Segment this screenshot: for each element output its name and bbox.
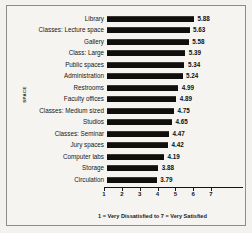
bar-value-label: 5.58 [192,39,204,45]
bar-track: 5.39 [107,48,243,60]
category-label: Jury spaces [16,142,107,148]
bar [107,96,176,102]
bar-track: 5.24 [107,71,243,83]
bar-row: Computer labs4.19 [16,151,243,163]
chart-figure: SPACE Library5.88Classes: Lecture space5… [0,0,252,233]
x-axis-tick-label: 3 [138,191,141,197]
bar [107,62,184,68]
bar-track: 5.63 [107,25,243,37]
bar-value-label: 4.47 [172,131,184,137]
bar [107,85,178,91]
bar-track: 4.99 [107,82,243,94]
bar-row: Restrooms4.99 [16,82,243,94]
plot-area: Library5.88Classes: Lecture space5.63Gal… [16,13,243,221]
bar-row: Public spaces5.34 [16,59,243,71]
bar-row: Studios4.65 [16,117,243,129]
bar-row: Faculty offices4.89 [16,94,243,106]
bar-value-label: 5.34 [188,62,200,68]
x-axis-tick-label: 5 [174,191,177,197]
category-label: Library [16,16,107,22]
bar [107,165,158,171]
category-label: Restrooms [16,85,107,91]
bar-value-label: 5.24 [186,73,198,79]
bar-track: 3.79 [107,174,243,186]
category-label: Gallery [16,39,107,45]
bar-value-label: 5.39 [189,50,201,56]
bar-row: Storage3.88 [16,163,243,175]
bar-track: 5.88 [107,13,243,25]
bar-value-label: 5.88 [198,16,210,22]
bar [107,39,189,45]
bar-track: 4.42 [107,140,243,152]
bar [107,108,174,114]
bar-track: 4.19 [107,151,243,163]
bar-row: Administration5.24 [16,71,243,83]
bar-value-label: 3.79 [160,177,172,183]
category-label: Public spaces [16,62,107,68]
bar [107,154,164,160]
x-axis-tick-label: 4 [156,191,159,197]
bar-track: 4.89 [107,94,243,106]
x-axis-tick-label: 1 [102,191,105,197]
category-label: Faculty offices [16,96,107,102]
category-label: Classes: Lecture space [16,27,107,33]
category-label: Computer labs [16,154,107,160]
category-label: Storage [16,165,107,171]
bar-value-label: 4.65 [176,119,188,125]
bar-value-label: 4.75 [177,108,189,114]
category-label: Administration [16,73,107,79]
bar-row: Library5.88 [16,13,243,25]
bar [107,27,190,33]
bar [107,16,194,22]
bar-rows: Library5.88Classes: Lecture space5.63Gal… [16,13,243,186]
category-label: Circulation [16,177,107,183]
bar-value-label: 4.19 [167,154,179,160]
bar-value-label: 3.88 [162,165,174,171]
bar-value-label: 5.63 [193,27,205,33]
bar [107,142,168,148]
bar-value-label: 4.89 [180,96,192,102]
bar [107,73,183,79]
bar [107,119,172,125]
bar-row: Circulation3.79 [16,174,243,186]
bar-track: 4.47 [107,128,243,140]
bar-row: Classes: Medium sized4.75 [16,105,243,117]
bar-row: Jury spaces4.42 [16,140,243,152]
bar-track: 4.65 [107,117,243,129]
bar [107,131,169,137]
x-axis-line: 1234567 [104,187,243,197]
bar-value-label: 4.42 [171,142,183,148]
category-label: Classes: Seminar [16,131,107,137]
x-axis-tick-label: 6 [191,191,194,197]
category-label: Classes: Medium sized [16,108,107,114]
bar [107,177,157,183]
category-label: Studios [16,119,107,125]
x-axis-tick-label: 7 [209,191,212,197]
axis-spacer [16,187,104,197]
bar-row: Gallery5.58 [16,36,243,48]
bar-track: 5.58 [107,36,243,48]
x-axis-tick-label: 2 [120,191,123,197]
bar-row: Classes: Seminar4.47 [16,128,243,140]
x-axis-caption: 1 = Very Dissatisfied to 7 = Very Satisf… [16,213,243,219]
x-axis: 1234567 [16,187,243,197]
bar-track: 5.34 [107,59,243,71]
bar-track: 4.75 [107,105,243,117]
bar-row: Class: Large5.39 [16,48,243,60]
bar [107,50,185,56]
category-label: Class: Large [16,50,107,56]
bar-value-label: 4.99 [182,85,194,91]
bar-row: Classes: Lecture space5.63 [16,25,243,37]
bar-track: 3.88 [107,163,243,175]
